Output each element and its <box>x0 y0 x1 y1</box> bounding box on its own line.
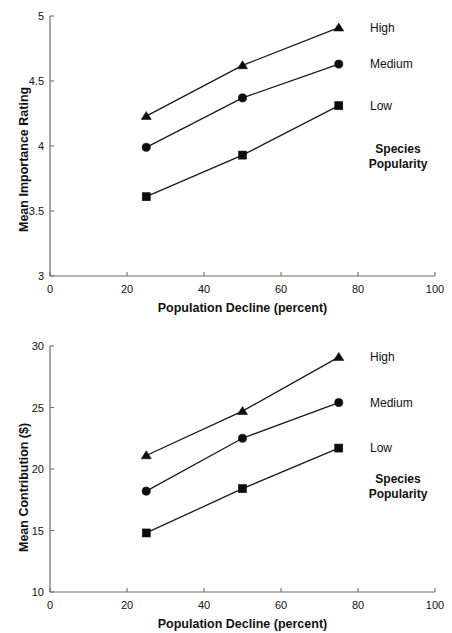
series-low <box>142 444 343 537</box>
y-tick-label: 3 <box>38 271 44 282</box>
data-point-triangle <box>141 451 151 459</box>
data-point-triangle <box>334 352 344 360</box>
data-point-circle <box>238 434 246 442</box>
legend-title-line-1: Species <box>369 142 428 157</box>
legend-label-low: Low <box>370 100 392 112</box>
data-point-square <box>142 193 150 201</box>
x-tick-label: 100 <box>426 600 444 611</box>
series-line <box>146 64 339 147</box>
data-point-square <box>335 102 343 110</box>
legend-label-high: High <box>370 351 395 363</box>
x-tick-label: 0 <box>47 600 53 611</box>
data-point-square <box>239 151 247 159</box>
legend-label-low: Low <box>370 442 392 454</box>
legend-label-high: High <box>370 22 395 34</box>
y-tick-label: 4.5 <box>29 76 44 87</box>
x-tick-label: 20 <box>121 284 133 295</box>
legend-label-medium: Medium <box>370 58 413 70</box>
x-tick-label: 40 <box>198 600 210 611</box>
y-tick-label: 4 <box>38 141 44 152</box>
y-tick-label: 10 <box>32 587 44 598</box>
series-high <box>141 352 344 458</box>
chart-mean-contribution: 1015202530020406080100Mean Contribution … <box>0 320 452 633</box>
x-tick-label: 40 <box>198 284 210 295</box>
data-point-circle <box>335 398 343 406</box>
legend-title-line-2: Popularity <box>369 487 428 502</box>
series-line <box>146 403 339 492</box>
legend-title: SpeciesPopularity <box>369 472 428 502</box>
data-point-square <box>142 529 150 537</box>
series-line <box>146 28 339 116</box>
legend-title: SpeciesPopularity <box>369 142 428 172</box>
data-point-square <box>335 444 343 452</box>
data-point-circle <box>142 487 150 495</box>
y-tick-label: 5 <box>38 11 44 22</box>
x-tick-label: 20 <box>121 600 133 611</box>
chart-importance-rating: 33.544.55020406080100Mean Importance Rat… <box>0 0 452 320</box>
y-tick-label: 25 <box>32 402 44 413</box>
legend-label-medium: Medium <box>370 397 413 409</box>
y-tick-label: 20 <box>32 464 44 475</box>
data-point-circle <box>142 143 150 151</box>
data-point-triangle <box>238 407 248 415</box>
data-point-triangle <box>334 23 344 31</box>
data-point-circle <box>335 60 343 68</box>
series-high <box>141 23 344 119</box>
y-axis-title: Mean Contribution ($) <box>18 423 32 552</box>
x-tick-label: 0 <box>47 284 53 295</box>
x-tick-label: 60 <box>275 284 287 295</box>
series-low <box>142 102 343 201</box>
legend-title-line-2: Popularity <box>369 157 428 172</box>
x-tick-label: 80 <box>352 284 364 295</box>
data-point-circle <box>238 94 246 102</box>
series-medium <box>142 60 343 151</box>
y-tick-label: 15 <box>32 525 44 536</box>
data-point-triangle <box>238 61 248 69</box>
x-tick-label: 80 <box>352 600 364 611</box>
data-point-square <box>239 485 247 493</box>
x-tick-label: 60 <box>275 600 287 611</box>
x-axis-title: Population Decline (percent) <box>158 302 327 316</box>
legend-title-line-1: Species <box>369 472 428 487</box>
data-point-triangle <box>141 112 151 120</box>
y-tick-label: 30 <box>32 341 44 352</box>
x-axis-title: Population Decline (percent) <box>158 618 327 632</box>
y-axis-title: Mean Importance Rating <box>18 87 32 232</box>
x-tick-label: 100 <box>426 284 444 295</box>
